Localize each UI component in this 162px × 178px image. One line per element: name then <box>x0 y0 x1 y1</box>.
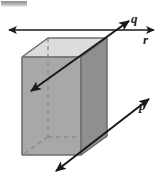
prism-left-face <box>22 57 81 155</box>
rectangular-prism <box>22 38 107 155</box>
geometry-figure: q r p <box>0 0 162 178</box>
line-label-r: r <box>143 33 148 46</box>
prism-diagram-svg <box>0 0 162 178</box>
line-label-p: p <box>139 99 146 112</box>
prism-right-face <box>81 38 107 155</box>
line-label-q: q <box>131 12 138 25</box>
